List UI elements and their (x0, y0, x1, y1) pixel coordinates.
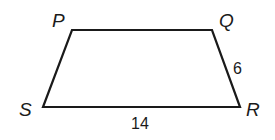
vertex-label-r: R (246, 100, 260, 119)
side-length-sr: 14 (131, 116, 149, 132)
side-length-qr: 6 (233, 61, 242, 77)
vertex-label-s: S (19, 100, 32, 119)
vertex-label-p: P (52, 11, 65, 30)
trapezoid-pqrs (43, 30, 240, 107)
vertex-label-q: Q (219, 11, 234, 30)
